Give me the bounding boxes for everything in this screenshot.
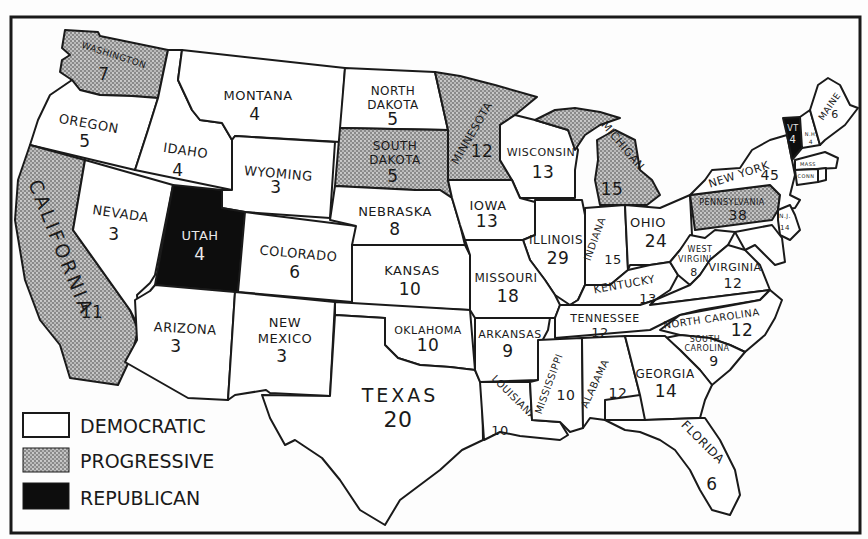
votes-maine: 6 <box>831 108 839 121</box>
votes-nebraska: 8 <box>389 219 400 239</box>
label-massachusetts: MASS <box>800 161 816 167</box>
label-new-mexico-line1: NEW <box>269 315 301 330</box>
legend-swatch-progressive <box>23 448 69 472</box>
votes-new-hampshire: 4 <box>809 138 813 145</box>
state-mississippi[interactable]: MISSISSIPPI 10 <box>530 338 583 432</box>
legend-swatch-democratic <box>23 413 69 437</box>
votes-illinois: 29 <box>547 248 570 268</box>
state-kansas[interactable]: KANSAS 10 <box>352 245 470 310</box>
state-indiana[interactable]: INDIANA 15 <box>582 205 628 285</box>
votes-kansas: 10 <box>399 279 422 299</box>
label-south-carolina-line1: SOUTH <box>690 335 721 344</box>
label-utah: UTAH <box>181 228 218 243</box>
label-pennsylvania: PENNSYLVANIA <box>699 198 765 207</box>
votes-south-carolina: 9 <box>709 353 718 369</box>
label-vermont: VT <box>787 124 798 133</box>
legend-item-democratic: DEMOCRATIC <box>23 413 206 437</box>
votes-missouri: 18 <box>497 286 520 306</box>
votes-arkansas: 9 <box>502 341 513 361</box>
state-north-dakota[interactable]: NORTH DAKOTA 5 <box>340 68 448 130</box>
votes-minnesota: 12 <box>471 141 494 161</box>
votes-oregon: 5 <box>79 131 90 151</box>
votes-washington: 7 <box>98 64 109 84</box>
legend-item-progressive: PROGRESSIVE <box>23 448 214 472</box>
label-north-dakota-line1: NORTH <box>371 84 416 98</box>
legend: DEMOCRATIC PROGRESSIVE REPUBLICAN <box>23 413 214 509</box>
label-west-virginia-line1: WEST <box>688 245 713 254</box>
state-colorado[interactable]: COLORADO 6 <box>238 212 356 302</box>
votes-virginia: 12 <box>724 275 743 291</box>
label-south-dakota-line1: SOUTH <box>373 139 418 153</box>
votes-idaho: 4 <box>172 160 183 180</box>
legend-label-republican: REPUBLICAN <box>80 487 200 509</box>
votes-michigan: 15 <box>601 179 624 199</box>
votes-arizona: 3 <box>170 336 181 356</box>
label-new-jersey: N.J. <box>779 212 791 220</box>
label-missouri: MISSOURI <box>474 271 537 285</box>
votes-nevada: 3 <box>108 224 119 244</box>
votes-new-york: 45 <box>761 167 780 183</box>
label-arkansas: ARKANSAS <box>478 328 542 341</box>
votes-mississippi: 10 <box>557 387 576 403</box>
legend-label-democratic: DEMOCRATIC <box>80 415 206 437</box>
label-illinois: ILLINOIS <box>529 233 583 247</box>
votes-utah: 4 <box>194 244 205 264</box>
votes-colorado: 6 <box>289 262 300 282</box>
votes-montana: 4 <box>249 104 260 124</box>
votes-louisiana: 10 <box>491 423 509 438</box>
votes-new-jersey: 14 <box>780 224 790 232</box>
label-south-dakota-line2: DAKOTA <box>369 153 421 167</box>
label-south-carolina-line2: CAROLINA <box>684 344 729 353</box>
votes-georgia: 14 <box>655 381 678 401</box>
votes-oklahoma: 10 <box>417 335 440 355</box>
votes-north-carolina: 12 <box>731 320 754 340</box>
legend-item-republican: REPUBLICAN <box>23 483 200 509</box>
electoral-map: WASHINGTON 7 OREGON 5 CALIFORNIA 11 IDAH… <box>0 0 868 539</box>
state-rhode-island[interactable] <box>818 168 826 182</box>
legend-label-progressive: PROGRESSIVE <box>80 450 214 472</box>
votes-north-dakota: 5 <box>387 109 398 129</box>
label-georgia: GEORGIA <box>635 367 695 381</box>
label-new-mexico-line2: MEXICO <box>258 331 312 346</box>
votes-indiana: 15 <box>604 252 622 267</box>
map-svg: WASHINGTON 7 OREGON 5 CALIFORNIA 11 IDAH… <box>0 0 868 539</box>
votes-south-dakota: 5 <box>387 166 398 186</box>
votes-alabama: 12 <box>609 385 628 401</box>
votes-texas: 20 <box>384 407 413 432</box>
votes-new-mexico: 3 <box>276 346 287 366</box>
label-virginia: VIRGINIA <box>708 261 761 274</box>
votes-pennsylvania: 38 <box>729 207 748 223</box>
legend-swatch-republican <box>23 483 69 509</box>
label-ohio: OHIO <box>630 215 666 230</box>
votes-ohio: 24 <box>645 231 668 251</box>
label-texas: TEXAS <box>361 384 439 406</box>
state-new-mexico[interactable]: NEW MEXICO 3 <box>228 292 335 400</box>
votes-california: 11 <box>81 302 104 322</box>
label-connecticut: CONN <box>798 173 815 179</box>
label-wisconsin: WISCONSIN <box>507 146 576 159</box>
label-montana: MONTANA <box>223 88 292 103</box>
votes-vermont: 4 <box>790 134 797 145</box>
votes-wisconsin: 13 <box>532 162 555 182</box>
state-wyoming[interactable]: WYOMING 3 <box>222 136 335 218</box>
label-tennessee: TENNESSEE <box>569 312 639 325</box>
label-nebraska: NEBRASKA <box>358 204 432 219</box>
votes-wyoming: 3 <box>270 177 281 197</box>
votes-florida: 6 <box>706 474 717 494</box>
state-connecticut[interactable]: CONN <box>795 169 818 185</box>
votes-iowa: 13 <box>476 211 499 231</box>
label-kansas: KANSAS <box>384 263 440 278</box>
